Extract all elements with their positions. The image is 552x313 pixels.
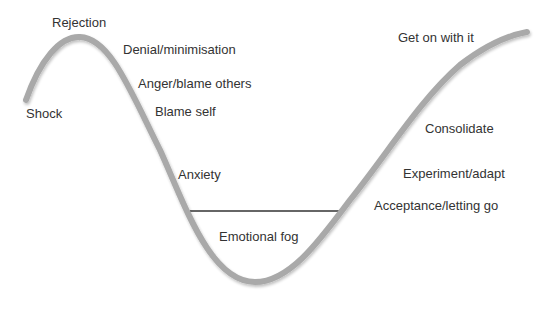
change-curve [26,32,527,282]
label-get-on-with-it: Get on with it [398,31,474,44]
label-anger: Anger/blame others [138,77,251,90]
label-consolidate: Consolidate [425,122,494,135]
change-curve-diagram [0,0,552,313]
label-experiment: Experiment/adapt [403,167,505,180]
label-rejection: Rejection [52,16,106,29]
label-acceptance: Acceptance/letting go [374,199,498,212]
label-anxiety: Anxiety [178,168,221,181]
label-denial: Denial/minimisation [123,43,236,56]
label-emotional-fog: Emotional fog [219,230,299,243]
label-shock: Shock [26,107,62,120]
label-blame-self: Blame self [155,105,216,118]
